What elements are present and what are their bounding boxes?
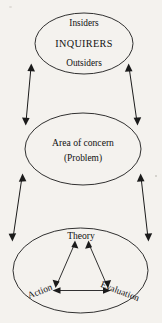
node-area-of-concern: Area of concern (Problem): [25, 113, 141, 185]
connector-inquirers-concern-left: [22, 64, 35, 126]
node-cycle: Theory Action Evaluation: [13, 228, 148, 313]
scan-artifact-right: [155, 175, 157, 177]
node-inquirers: Insiders INQUIRERS Outsiders: [35, 13, 133, 74]
arrowhead-up-right-upper: [125, 64, 133, 72]
diagram-container: Insiders INQUIRERS Outsiders Area of con…: [0, 0, 162, 323]
arrowhead-up-right-lower: [137, 174, 145, 182]
connector-concern-cycle-left: [9, 174, 27, 242]
arrowhead-up-left-lower: [19, 174, 27, 182]
arrowhead-down-right-lower: [134, 117, 142, 125]
concern-title-label: Area of concern: [52, 137, 114, 148]
arrowhead-down-left-lower: [22, 118, 30, 126]
connector-inquirers-concern-right: [125, 64, 141, 126]
concern-subtitle-label: (Problem): [64, 153, 102, 164]
cycle-theory-label: Theory: [67, 230, 95, 241]
arrowhead-theory-from-action: [71, 241, 78, 249]
connector-concern-cycle-right: [137, 174, 152, 242]
inquirers-insiders-label: Insiders: [69, 18, 99, 28]
concern-ellipse: [25, 113, 141, 185]
arrowhead-up-left-upper: [27, 64, 35, 72]
arrowhead-down-left-bottom: [9, 233, 17, 241]
scan-artifact-top-left: [9, 6, 12, 8]
cycle-action-label: Action: [26, 282, 54, 301]
arrowhead-action-from-evaluation: [53, 287, 61, 293]
inquirers-main-label: INQUIRERS: [55, 38, 113, 49]
arrowhead-down-right-bottom: [145, 233, 153, 241]
inquirers-outsiders-label: Outsiders: [66, 58, 102, 68]
cycle-link-action-theory: [53, 241, 79, 289]
arrowhead-theory-from-evaluation: [85, 241, 92, 249]
diagram-canvas: Insiders INQUIRERS Outsiders Area of con…: [0, 0, 162, 323]
